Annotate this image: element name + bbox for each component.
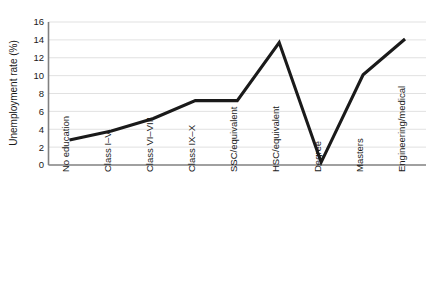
x-tick-label: Engineering/medical (396, 86, 407, 172)
y-tick-label: 4 (39, 124, 44, 135)
x-tick-label: Class I–V (102, 131, 113, 172)
line-chart: 0246810121416 No educationClass I–VClass… (0, 0, 431, 288)
x-tick-label: Class VI–VIII (144, 117, 155, 172)
y-tick-label: 12 (33, 52, 44, 63)
x-tick-label: HSC/equivalent (270, 106, 281, 172)
x-tick-label: SSC/equivalent (228, 106, 239, 172)
x-tick-label: Masters (354, 138, 365, 172)
y-tick-label: 2 (39, 142, 44, 153)
y-tick-label: 14 (33, 34, 44, 45)
y-tick-label: 8 (39, 88, 44, 99)
y-tick-label: 10 (33, 70, 44, 81)
y-tick-label: 16 (33, 16, 44, 27)
chart-figure: 0246810121416 No educationClass I–VClass… (0, 0, 431, 288)
x-tick-label: Class IX–X (186, 124, 197, 172)
y-tick-label: 0 (39, 159, 44, 170)
y-axis-title: Unemployment rate (%) (8, 40, 19, 146)
y-tick-labels-group: 0246810121416 (33, 16, 44, 170)
y-tick-label: 6 (39, 106, 44, 117)
x-tick-label: No education (60, 116, 71, 172)
